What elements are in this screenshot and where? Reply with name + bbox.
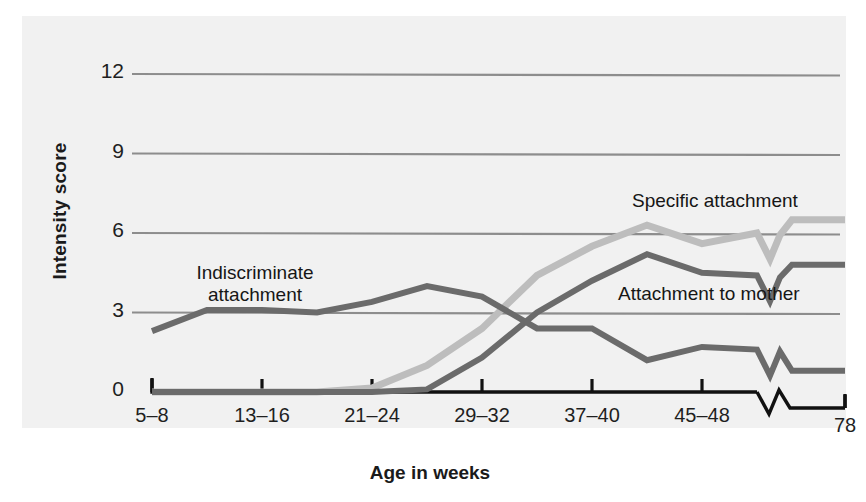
y-tick-6: 6 xyxy=(84,218,124,242)
x-tick-5-8: 5–8 xyxy=(97,404,207,427)
annotation-indiscriminate-line1: Indiscriminate xyxy=(140,262,370,284)
y-tick-0: 0 xyxy=(84,377,124,401)
y-axis-title: Intensity score xyxy=(49,111,71,311)
annotation-attachment-to-mother: Attachment to mother xyxy=(618,283,800,305)
x-tick-78: 78 xyxy=(790,414,866,437)
x-tick-45-48: 45–48 xyxy=(647,404,757,427)
x-tick-29-32: 29–32 xyxy=(427,404,537,427)
y-tick-3: 3 xyxy=(84,298,124,322)
annotation-specific-attachment: Specific attachment xyxy=(632,190,798,212)
y-tick-12: 12 xyxy=(84,59,124,83)
y-tick-9: 9 xyxy=(84,139,124,163)
annotation-indiscriminate-line2: attachment xyxy=(140,284,370,306)
x-axis-title: Age in weeks xyxy=(330,462,530,484)
x-tick-21-24: 21–24 xyxy=(317,404,427,427)
annotation-indiscriminate-attachment: Indiscriminate attachment xyxy=(140,262,370,307)
chart-figure: 0 3 6 9 12 5–8 13–16 21–24 29–32 37–40 4… xyxy=(0,0,866,502)
x-tick-13-16: 13–16 xyxy=(207,404,317,427)
x-tick-37-40: 37–40 xyxy=(537,404,647,427)
